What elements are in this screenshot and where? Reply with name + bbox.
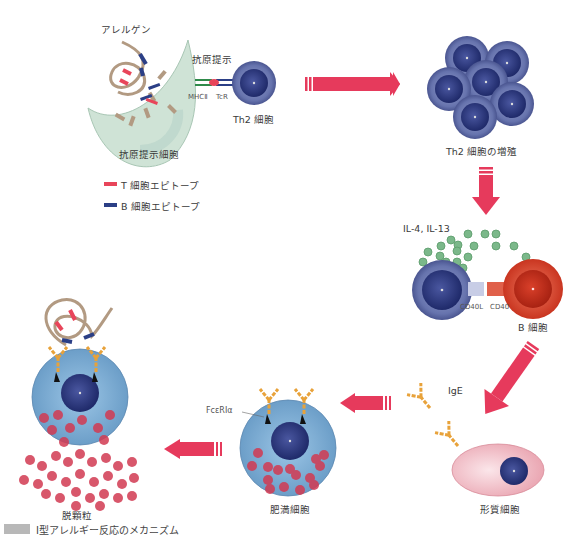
plasma-cell [452,444,544,496]
label-tcr: TcR [216,93,228,101]
th2-cell [232,61,276,105]
th2-cell-cd40l [412,260,484,320]
label-plasma-cell: 形質細胞 [480,502,520,516]
label-ige: IgE [448,385,463,396]
legend-swatch-b [104,203,117,207]
degranulating-mast-cell [19,300,139,511]
figure-number-tag [4,524,30,534]
legend-t-epitope: T 細胞エピトープ [121,178,199,192]
legend-b-epitope: B 細胞エピトープ [121,199,200,213]
arrow-left-1 [340,393,391,413]
label-th2-proliferation: Th2 細胞の増殖 [446,144,517,158]
mhc-tcr-complex [195,79,234,86]
figure-caption: Ⅰ型アレルギー反応のメカニズム [4,523,179,535]
arrow-down [472,167,500,215]
th2-proliferation-cluster [427,36,534,139]
label-cd40l: CD40L [460,303,483,311]
allergen-protein [111,42,146,94]
label-cd40: CD40 [490,303,509,311]
label-mhc2: MHCⅡ [188,93,208,101]
label-apc: 抗原提示細胞 [119,147,179,161]
arrow-left-2 [164,439,222,459]
label-fceri-alpha: FcεRⅠα [206,406,233,415]
label-th2-cell: Th2 細胞 [233,112,274,126]
arrow-down-left [473,336,546,422]
label-degranulation: 脱顆粒 [62,508,92,522]
label-mast-cell: 肥満細胞 [270,502,310,516]
label-b-cell: B 細胞 [518,320,548,334]
legend-swatch-t [104,182,117,186]
label-antigen-presentation: 抗原提示 [192,52,232,66]
mast-cell [240,389,336,496]
label-interleukins: IL-4, IL-13 [403,223,450,234]
label-allergen: アレルゲン [101,22,151,36]
arrow-right [305,72,400,96]
figure-caption-text: Ⅰ型アレルギー反応のメカニズム [36,522,179,537]
